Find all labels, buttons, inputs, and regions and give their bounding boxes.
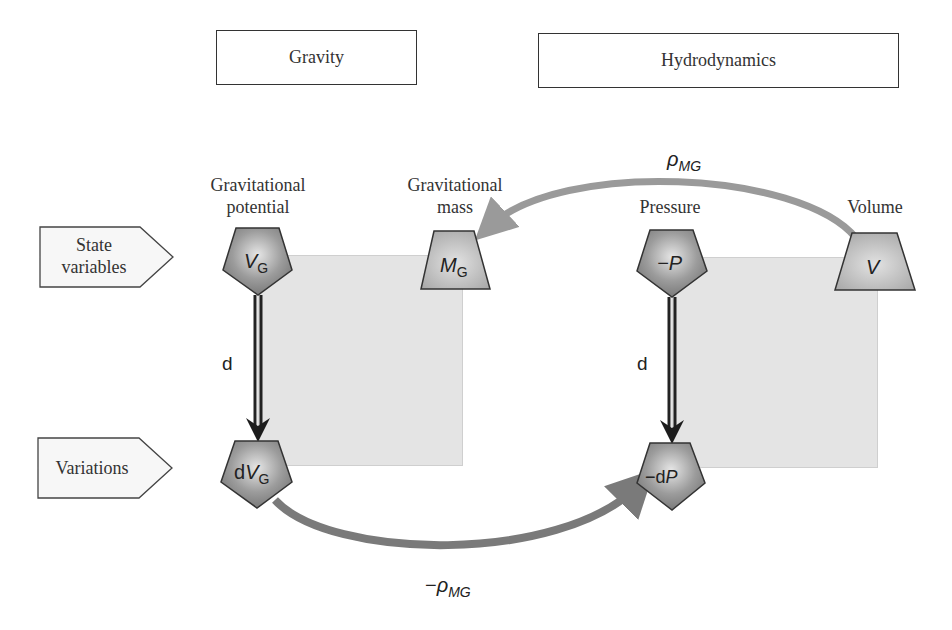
variations-text: Variations: [56, 458, 129, 478]
bottom-arc-label: −ρMG: [425, 574, 471, 600]
variations-label: Variations: [42, 457, 142, 479]
neg-p-symbol: −P: [657, 252, 683, 274]
neg-dp-symbol: −dP: [645, 467, 678, 487]
d-arrow-right: [660, 297, 684, 444]
v-symbol: V: [866, 256, 881, 278]
d-left-label: d: [222, 353, 233, 375]
state-variables-line2: variables: [44, 256, 144, 278]
diagram-graphics: VG MG −P V dVG −dP ρMG −ρMG: [0, 0, 952, 630]
state-variables-label: State variables: [44, 234, 144, 278]
d-right-label: d: [637, 353, 648, 375]
top-arc-label: ρMG: [666, 148, 701, 174]
d-arrow-left: [246, 295, 270, 442]
state-variables-line1: State: [44, 234, 144, 256]
bottom-arc-arrow: [275, 486, 638, 545]
